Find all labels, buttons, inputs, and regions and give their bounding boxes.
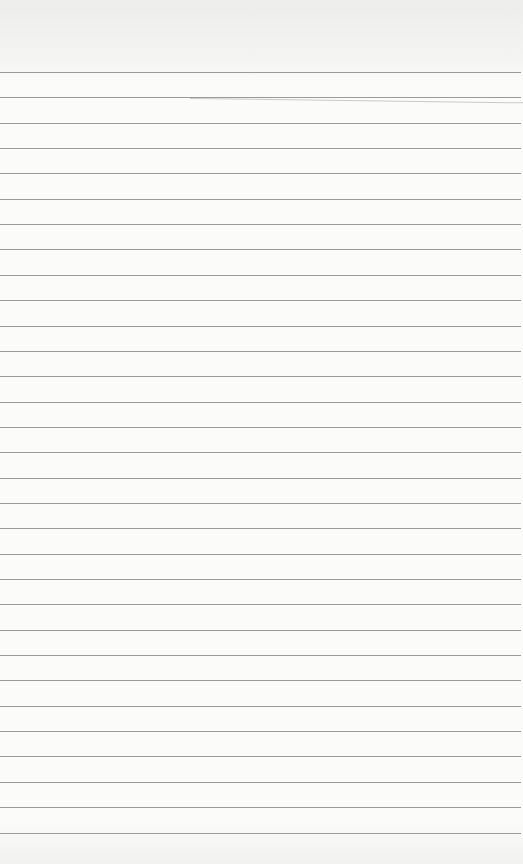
ruled-line — [0, 756, 521, 757]
lined-paper — [0, 0, 523, 864]
ruled-line — [0, 630, 521, 631]
ruled-line — [0, 123, 521, 124]
ruled-line — [0, 173, 521, 174]
ruled-line — [0, 604, 521, 605]
ruled-line — [0, 680, 521, 681]
ruled-line — [0, 452, 521, 453]
ruled-line — [0, 148, 521, 149]
ruled-line — [0, 97, 521, 98]
ruled-line — [0, 376, 521, 377]
ruled-line — [0, 199, 521, 200]
ruled-line — [0, 326, 521, 327]
ruled-line — [0, 300, 521, 301]
ruled-line — [0, 224, 521, 225]
ruled-line — [0, 706, 521, 707]
ruled-line — [0, 478, 521, 479]
ruled-line — [0, 655, 521, 656]
stray-faint-line — [190, 98, 523, 103]
ruled-line — [0, 554, 521, 555]
ruled-line — [0, 833, 521, 834]
ruled-line — [0, 402, 521, 403]
ruled-line — [0, 503, 521, 504]
ruled-line — [0, 351, 521, 352]
ruled-line — [0, 427, 521, 428]
ruled-line — [0, 72, 521, 73]
ruled-line — [0, 528, 521, 529]
ruled-line — [0, 731, 521, 732]
ruled-line — [0, 782, 521, 783]
ruled-line — [0, 275, 521, 276]
ruled-line — [0, 579, 521, 580]
ruled-line — [0, 807, 521, 808]
ruled-line — [0, 249, 521, 250]
